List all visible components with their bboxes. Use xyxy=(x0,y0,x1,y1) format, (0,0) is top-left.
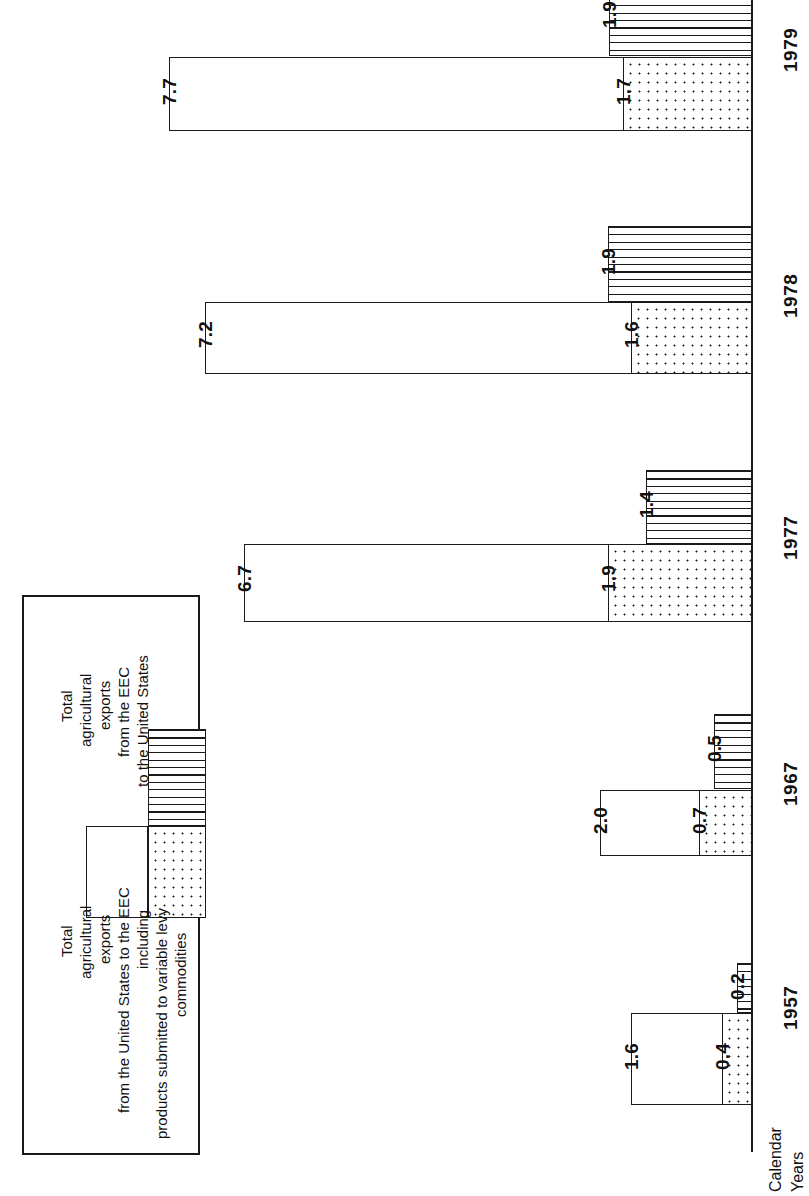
value-label-eec-1979: 1.9 xyxy=(600,1,619,28)
bar-levy-commodities-1979 xyxy=(623,57,752,131)
value-label-total-1977: 6.7 xyxy=(235,565,254,592)
bar-eec-to-us-1977 xyxy=(646,470,752,544)
legend-label-total-line4: from the United States to the EEC xyxy=(114,887,134,1113)
legend-label-total-line7: commodities xyxy=(171,933,191,1017)
value-label-eec-1978: 1.9 xyxy=(599,248,618,275)
axis-title-years: Years xyxy=(788,1152,808,1192)
legend-label-total-line3: exports xyxy=(95,915,115,964)
legend-label-eec-line4: from the EEC xyxy=(114,667,134,757)
value-label-levy-1979: 1.7 xyxy=(614,78,633,105)
value-label-eec-1977: 1.4 xyxy=(637,491,656,518)
chart-area: 1.9 7.7 1.7 1979 1.9 7.2 1.6 1978 1.4 6.… xyxy=(0,0,809,1196)
value-label-eec-1957: 0.2 xyxy=(728,973,747,1000)
category-label-1977: 1977 xyxy=(781,516,800,560)
legend-label-total-line2: agricultural xyxy=(76,906,96,979)
category-label-1957: 1957 xyxy=(781,986,800,1030)
value-label-levy-1977: 1.9 xyxy=(599,565,618,592)
category-label-1978: 1978 xyxy=(781,274,800,318)
bar-eec-to-us-1979 xyxy=(609,0,752,56)
bar-eec-to-us-1978 xyxy=(608,226,752,302)
bar-levy-commodities-1978 xyxy=(631,302,752,374)
value-label-eec-1967: 0.5 xyxy=(705,735,724,762)
axis-title-calendar: Calendar xyxy=(766,1127,786,1192)
value-label-levy-1978: 1.6 xyxy=(622,321,641,348)
category-label-1967: 1967 xyxy=(781,762,800,806)
legend-label-eec-line2: agricultural xyxy=(76,674,96,747)
category-label-1979: 1979 xyxy=(781,28,800,72)
bar-levy-commodities-1977 xyxy=(608,544,752,622)
legend-label-total-line1: Total xyxy=(57,925,77,957)
legend-label-eec-line3: exports xyxy=(95,681,115,730)
legend-swatch-levy-commodities xyxy=(148,826,206,918)
value-label-total-1957: 1.6 xyxy=(622,1043,641,1070)
legend-label-eec-line5: to the United States xyxy=(133,655,153,787)
value-label-levy-1957: 0.4 xyxy=(713,1043,732,1070)
value-label-levy-1967: 0.7 xyxy=(690,807,709,834)
legend-label-total-line5: including xyxy=(133,910,153,969)
legend-label-eec-line1: Total xyxy=(57,690,77,722)
value-label-total-1979: 7.7 xyxy=(160,78,179,105)
legend-swatch-eec-to-us xyxy=(148,729,206,826)
value-label-total-1967: 2.0 xyxy=(591,807,610,834)
legend-label-total-line6: products submitted to variable levy xyxy=(152,908,172,1139)
legend: Total agricultural exports from the Unit… xyxy=(22,595,200,1155)
value-label-total-1978: 7.2 xyxy=(196,321,215,348)
